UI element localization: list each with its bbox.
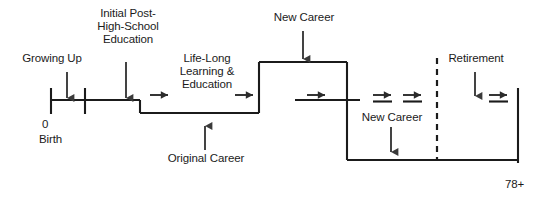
- label-retirement: Retirement: [435, 52, 517, 65]
- timeline-step-path: [51, 62, 518, 160]
- life-timeline-diagram: Growing Up Initial Post- High-School Edu…: [0, 0, 546, 202]
- label-new-career-top: New Career: [258, 11, 350, 24]
- label-new-career-bottom: New Career: [348, 111, 436, 124]
- label-original-career: Original Career: [150, 152, 262, 165]
- label-lifelong-learning-education: Life-Long Learning & Education: [168, 52, 246, 92]
- label-initial-post-high-school-education: Initial Post- High-School Education: [80, 7, 176, 47]
- label-growing-up: Growing Up: [8, 52, 96, 65]
- axis-label-birth: Birth: [39, 133, 85, 146]
- axis-label-end: 78+: [505, 178, 545, 191]
- axis-label-zero: 0: [42, 118, 72, 131]
- callout-arrows: [67, 31, 475, 152]
- timeline-midlevel-segments: [295, 100, 508, 102]
